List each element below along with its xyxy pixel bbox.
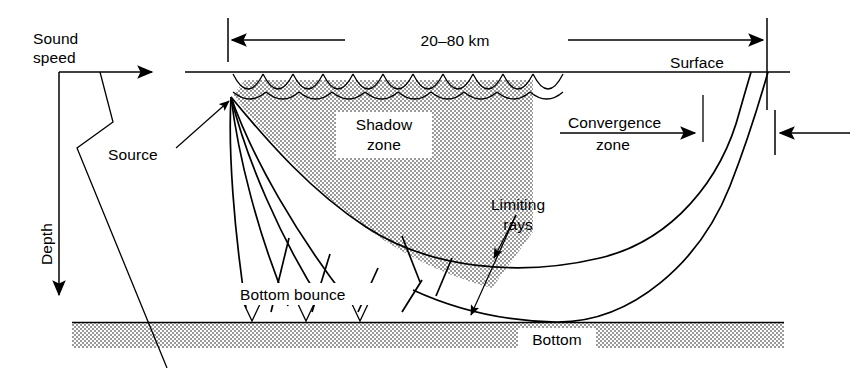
bottom-bounce-label: Bottom bounce (240, 286, 346, 303)
limiting-rays-label-line2: rays (503, 216, 533, 233)
diagram-root: Sound speed Depth Source 20–80 km Surfac… (0, 0, 854, 368)
shadow-zone-label-line2: zone (367, 136, 401, 153)
shadow-zone-fill (233, 80, 533, 288)
sound-speed-label-line1: Sound (33, 30, 78, 47)
depth-label: Depth (38, 223, 55, 265)
distance-label: 20–80 km (421, 32, 490, 49)
bottom-label: Bottom (532, 331, 582, 348)
source-label: Source (108, 146, 158, 163)
source-leader (176, 101, 229, 148)
limiting-rays-label-line1: Limiting (491, 196, 545, 213)
seafloor-fill (72, 323, 784, 348)
convergence-zone-label-line2: zone (596, 136, 630, 153)
convergence-zone-label-line1: Convergence (568, 114, 661, 131)
sound-speed-label-line2: speed (33, 49, 76, 66)
shadow-zone-label-line1: Shadow (356, 116, 413, 133)
bottom-bounce-reflect-4 (402, 280, 422, 312)
sound-propagation-diagram: Sound speed Depth Source 20–80 km Surfac… (0, 0, 854, 368)
surface-label: Surface (670, 54, 724, 71)
sound-speed-axes (59, 72, 152, 295)
